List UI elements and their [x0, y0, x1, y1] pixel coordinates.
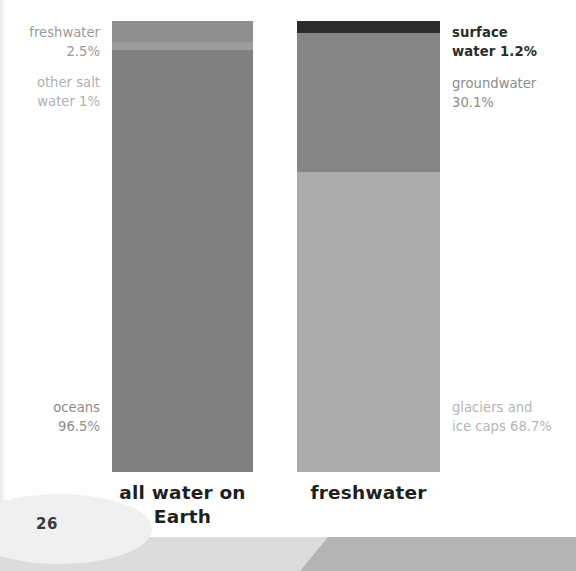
segment-other-salt-water: [112, 42, 253, 50]
segment-surface-water: [297, 21, 440, 33]
label-oceans: oceans 96.5%: [0, 398, 100, 436]
label-glaciers-ice-caps: glaciers and ice caps 68.7%: [452, 398, 576, 436]
bottom-wedge-accent: [300, 537, 576, 571]
segment-groundwater: [297, 33, 440, 172]
bar-all-water-on-earth: [112, 21, 253, 472]
segment-freshwater: [112, 21, 253, 42]
segment-oceans: [112, 50, 253, 472]
segment-glaciers-ice-caps: [297, 172, 440, 472]
label-surface-water: surface water 1.2%: [452, 23, 572, 61]
page-number: 26: [36, 515, 76, 533]
caption-freshwater: freshwater: [297, 481, 440, 505]
infographic-page: freshwater 2.5% other salt water 1% ocea…: [0, 0, 576, 571]
bar-freshwater: [297, 21, 440, 472]
label-other-salt-water: other salt water 1%: [0, 73, 100, 111]
label-freshwater: freshwater 2.5%: [0, 23, 100, 61]
label-groundwater: groundwater 30.1%: [452, 74, 572, 112]
